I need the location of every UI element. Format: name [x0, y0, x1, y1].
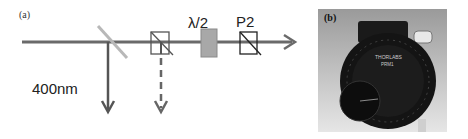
rejected-beam-dashed-arrow: [155, 58, 167, 112]
panel-a-optical-setup: (a) λ/2 P2 400: [0, 0, 310, 139]
half-wave-plate-label: λ/2: [188, 14, 208, 31]
half-wave-plate-icon: [201, 29, 217, 57]
reflected-beam-arrow: [102, 42, 114, 112]
wavelength-label: 400nm: [32, 80, 78, 97]
rotation-mount-photo: THORLABS PRM1: [318, 9, 447, 132]
engraving-model: PRM1: [381, 62, 394, 67]
panel-b-polarizer-mount-photo: (b) THORLABS PRM1: [318, 9, 447, 132]
engraving-brand: THORLABS: [375, 54, 403, 60]
polarizer-p2-label: P2: [236, 13, 254, 30]
optical-diagram: [0, 0, 310, 139]
